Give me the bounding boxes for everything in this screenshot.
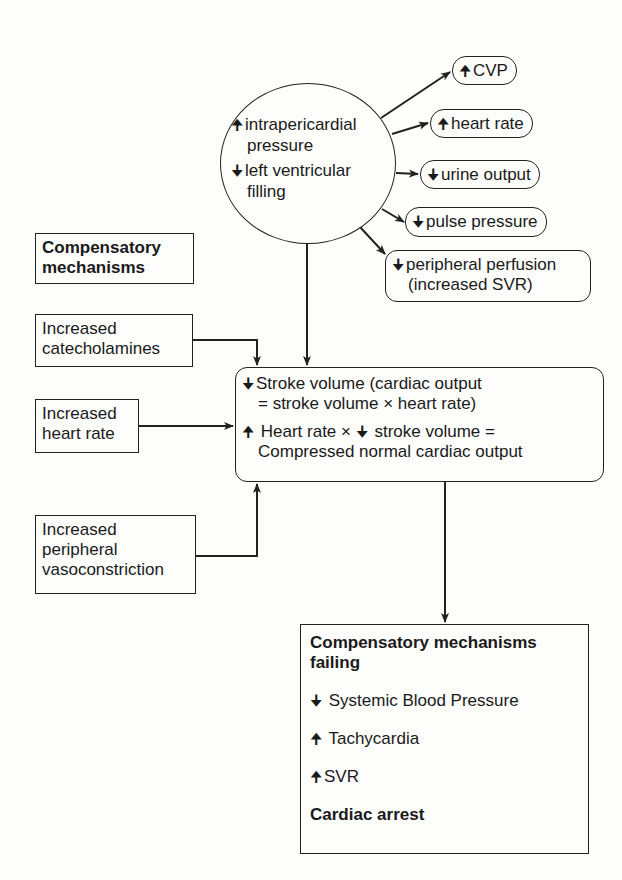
- effect-label: heart rate: [451, 114, 524, 134]
- title-line-1: Compensatory: [42, 238, 187, 258]
- failing-item: SVR: [324, 767, 359, 786]
- cause-line-1: intrapericardial: [245, 115, 357, 134]
- arrow-to-pulse-pressure: [382, 209, 404, 222]
- effect-cvp: 🠉CVP: [452, 56, 517, 85]
- central-line: Stroke volume (cardiac output: [256, 374, 482, 393]
- arrow-to-urine-output: [396, 173, 418, 174]
- mechanism-line: catecholamines: [42, 339, 186, 359]
- cause-ellipse: 🠉intrapericardial pressure 🠋left ventric…: [220, 83, 396, 244]
- arrow-up-icon: 🠉: [437, 114, 449, 134]
- central-line: stroke volume =: [374, 422, 494, 441]
- effect-urine-output: 🠋urine output: [420, 160, 540, 189]
- compensatory-mechanisms-title: Compensatory mechanisms: [35, 233, 194, 284]
- effect-label: urine output: [441, 165, 531, 185]
- arrow-down-icon: 🠋: [356, 422, 368, 442]
- mechanism-catecholamines: Increased catecholamines: [35, 314, 193, 367]
- arrow-down-icon: 🠋: [392, 255, 404, 275]
- cause-line-2: left ventricular: [245, 161, 351, 180]
- effect-pulse-pressure: 🠋pulse pressure: [405, 207, 547, 237]
- central-line: Compressed normal cardiac output: [242, 442, 597, 462]
- central-line: = stroke volume × heart rate): [242, 394, 597, 414]
- effect-label: CVP: [473, 61, 508, 81]
- failing-item: Tachycardia: [328, 729, 419, 748]
- effect-label: pulse pressure: [426, 212, 538, 232]
- arrow-down-icon: 🠋: [427, 165, 439, 185]
- arrow-up-icon: 🠉: [310, 767, 322, 787]
- mechanism-line: Increased: [42, 520, 189, 540]
- title-line-2: mechanisms: [42, 258, 187, 278]
- arrow-up-icon: 🠉: [231, 114, 243, 135]
- arrow-to-peripheral-perfusion: [360, 227, 385, 254]
- failing-item: Systemic Blood Pressure: [329, 691, 519, 710]
- mechanism-vasoconstriction: Increased peripheral vasoconstriction: [35, 515, 196, 594]
- arrow-down-icon: 🠋: [310, 691, 322, 711]
- cause-line-2-cont: filling: [231, 181, 396, 202]
- mechanism-line: heart rate: [42, 424, 132, 444]
- arrow-up-icon: 🠉: [310, 729, 322, 749]
- mechanism-line: Increased: [42, 404, 132, 424]
- arrow-catecholamines-to-central: [192, 340, 257, 365]
- cause-line-1-cont: pressure: [231, 135, 396, 156]
- mechanism-heart-rate: Increased heart rate: [35, 399, 139, 453]
- arrow-up-icon: 🠉: [459, 61, 471, 81]
- arrow-down-icon: 🠋: [231, 160, 243, 181]
- effect-heart-rate: 🠉heart rate: [430, 109, 533, 138]
- failing-title: Compensatory mechanisms: [310, 633, 579, 653]
- central-stroke-volume-box: 🠋Stroke volume (cardiac output = stroke …: [235, 367, 604, 482]
- mechanism-line: peripheral: [42, 540, 189, 560]
- effect-label-cont: (increased SVR): [392, 275, 584, 295]
- mechanism-line: vasoconstriction: [42, 560, 189, 580]
- failing-title: failing: [310, 653, 579, 673]
- arrow-down-icon: 🠋: [412, 212, 424, 232]
- failing-outcome: Cardiac arrest: [310, 805, 579, 825]
- arrow-vasoconstriction-to-central: [195, 484, 257, 556]
- mechanism-line: Increased: [42, 319, 186, 339]
- arrow-to-heart-rate: [392, 123, 428, 134]
- arrow-up-icon: 🠉: [242, 422, 254, 442]
- failing-box: Compensatory mechanisms failing 🠋 System…: [300, 624, 589, 854]
- effect-label: peripheral perfusion: [406, 255, 556, 274]
- central-line: Heart rate ×: [261, 422, 356, 441]
- arrow-down-icon: 🠋: [242, 374, 254, 394]
- effect-peripheral-perfusion: 🠋peripheral perfusion (increased SVR): [385, 250, 591, 302]
